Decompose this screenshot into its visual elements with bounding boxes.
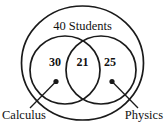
venn-diagram-figure: 40 Students 30 21 25 Calculus Physics bbox=[0, 0, 165, 127]
physics-set-label: Physics bbox=[125, 108, 163, 122]
calculus-set-label: Calculus bbox=[2, 108, 46, 122]
physics-set-circle bbox=[66, 36, 136, 104]
physics-only-count: 25 bbox=[104, 55, 116, 69]
universe-label: 40 Students bbox=[53, 19, 112, 33]
calculus-only-count: 30 bbox=[49, 55, 61, 69]
venn-diagram-canvas: 40 Students 30 21 25 Calculus Physics bbox=[0, 0, 165, 127]
intersection-count: 21 bbox=[77, 55, 89, 69]
calculus-set-circle bbox=[30, 36, 100, 104]
